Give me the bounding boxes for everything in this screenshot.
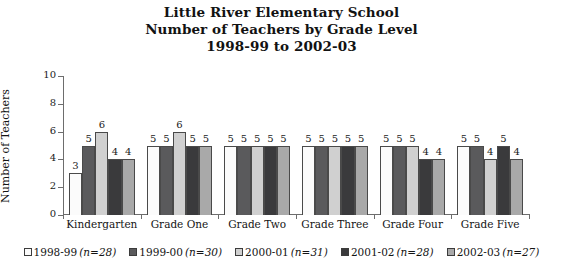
bar-value-label: 5 [254,133,260,145]
bar-value-label: 5 [345,133,351,145]
bar[interactable]: 5 [160,146,173,216]
bar-value-label: 5 [305,133,311,145]
bar-value-label: 5 [500,133,506,145]
legend-label-year: 2002-03 [457,246,501,258]
bar[interactable]: 5 [328,146,341,216]
bar-value-label: 4 [125,146,131,158]
x-axis-category-label: Grade Three [296,218,374,230]
legend-swatch [129,248,137,256]
bar-value-label: 5 [150,133,156,145]
bar-value-label: 5 [474,133,480,145]
bar[interactable]: 5 [470,146,483,216]
bar-group: 55555 [296,76,374,215]
legend-swatch [447,248,455,256]
bar[interactable]: 5 [237,146,250,216]
bar-value-label: 3 [72,160,78,172]
bar-value-label: 5 [383,133,389,145]
bar-value-label: 6 [99,119,105,131]
legend-label-n: (n=30) [185,246,222,258]
bar[interactable]: 4 [432,159,445,215]
bar-groups: 356445565555555555555554455454 [63,76,529,215]
bar[interactable]: 3 [69,173,82,215]
bar[interactable]: 4 [122,159,135,215]
legend-item[interactable]: 2002-03 (n=27) [447,246,540,258]
bar[interactable]: 5 [406,146,419,216]
chart-container: Little River Elementary School Number of… [0,0,563,270]
legend-label-year: 2000-01 [245,246,289,258]
bar[interactable]: 5 [497,146,510,216]
bar[interactable]: 5 [264,146,277,216]
x-axis-category-label: Grade Four [374,218,452,230]
bar[interactable]: 4 [108,159,121,215]
bar[interactable]: 4 [419,159,432,215]
y-axis-tick-label: 10 [30,69,56,80]
y-axis-tick-label: 0 [30,208,56,219]
bar[interactable]: 5 [355,146,368,216]
bar-value-label: 5 [396,133,402,145]
bar[interactable]: 5 [147,146,160,216]
bar-group-inner: 35644 [68,76,135,215]
chart-title: Little River Elementary School Number of… [0,4,563,55]
legend-swatch [341,248,349,256]
chart-title-line-3: 1998-99 to 2002-03 [0,38,563,55]
y-axis-label-wrap: Number of Teachers [0,76,12,215]
bar[interactable]: 5 [302,146,315,216]
bar-value-label: 4 [487,146,493,158]
bar-group-inner: 55454 [457,76,524,215]
bar-value-label: 5 [85,133,91,145]
bar-group-inner: 55555 [224,76,291,215]
bar[interactable]: 5 [277,146,290,216]
bar[interactable]: 5 [251,146,264,216]
bar-value-label: 5 [332,133,338,145]
bar[interactable]: 6 [95,132,108,215]
legend-label-year: 1999-00 [139,246,183,258]
x-axis-category-label: Grade Five [451,218,529,230]
x-axis-category-label: Grade Two [218,218,296,230]
x-axis-tick [529,214,530,219]
legend-label-n: (n=27) [502,246,539,258]
bar[interactable]: 5 [393,146,406,216]
bar-group: 35644 [63,76,141,215]
legend-swatch [235,248,243,256]
bar-value-label: 4 [423,146,429,158]
bar-value-label: 5 [358,133,364,145]
bar[interactable]: 5 [82,146,95,216]
bar-value-label: 4 [513,146,519,158]
y-axis-tick-label: 6 [30,125,56,136]
bar[interactable]: 4 [510,159,523,215]
x-axis-category-labels: KindergartenGrade OneGrade TwoGrade Thre… [63,218,529,230]
bar[interactable]: 4 [484,159,497,215]
bar-group-inner: 55544 [379,76,446,215]
bar[interactable]: 5 [224,146,237,216]
bar[interactable]: 5 [186,146,199,216]
bar-value-label: 4 [436,146,442,158]
legend-item[interactable]: 2000-01 (n=31) [235,246,328,258]
bar[interactable]: 5 [199,146,212,216]
bar-group: 55555 [218,76,296,215]
bar[interactable]: 5 [457,146,470,216]
legend-label-n: (n=31) [291,246,328,258]
legend-label-year: 1998-99 [34,246,78,258]
legend-label-n: (n=28) [397,246,434,258]
chart-legend: 1998-99 (n=28)1999-00 (n=30)2000-01 (n=3… [0,246,563,258]
bar[interactable]: 5 [315,146,328,216]
y-axis-tick-label: 8 [30,97,56,108]
bar[interactable]: 5 [341,146,354,216]
bar[interactable]: 5 [380,146,393,216]
bar[interactable]: 6 [173,132,186,215]
y-axis-tick-label: 4 [30,152,56,163]
y-axis-label: Number of Teachers [0,89,12,203]
y-axis-tick-label: 2 [30,180,56,191]
legend-item[interactable]: 1999-00 (n=30) [129,246,222,258]
bar-value-label: 4 [112,146,118,158]
bar-value-label: 5 [280,133,286,145]
legend-item[interactable]: 1998-99 (n=28) [24,246,117,258]
legend-item[interactable]: 2001-02 (n=28) [341,246,434,258]
bar-group-inner: 55555 [301,76,368,215]
bar-value-label: 5 [241,133,247,145]
bar-group: 55454 [451,76,529,215]
bar-value-label: 5 [203,133,209,145]
chart-title-line-2: Number of Teachers by Grade Level [0,21,563,38]
legend-label-year: 2001-02 [351,246,395,258]
x-axis-category-label: Grade One [141,218,219,230]
